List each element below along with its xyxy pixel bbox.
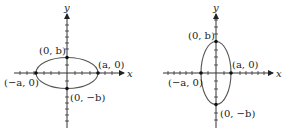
x-axis-label: x <box>127 68 133 79</box>
label-left: (−a, 0) <box>168 77 203 88</box>
point-bottom <box>65 87 69 91</box>
horizontal-ellipse-diagram: y x (0, b) (0, −b) (a, 0) (−a, 0) <box>4 2 133 128</box>
point-right <box>96 71 100 75</box>
label-right: (a, 0) <box>232 59 259 70</box>
label-left: (−a, 0) <box>4 77 39 88</box>
x-axis-label: x <box>276 68 282 79</box>
y-axis-label: y <box>212 2 219 13</box>
label-bottom: (0, −b) <box>220 108 255 119</box>
point-right <box>229 71 233 75</box>
point-left <box>199 71 203 75</box>
vertical-ellipse-diagram: y x (0, b) (0, −b) (a, 0) (−a, 0) <box>163 2 282 128</box>
label-bottom: (0, −b) <box>70 92 105 103</box>
y-axis-label: y <box>63 2 70 13</box>
label-right: (a, 0) <box>98 59 125 70</box>
point-bottom <box>214 103 218 107</box>
label-top: (0, b) <box>39 45 66 56</box>
point-top <box>65 56 69 60</box>
point-left <box>34 71 38 75</box>
ellipse-diagrams: y x (0, b) (0, −b) (a, 0) (−a, 0) y x (0… <box>0 0 286 135</box>
label-top: (0, b) <box>188 30 215 41</box>
